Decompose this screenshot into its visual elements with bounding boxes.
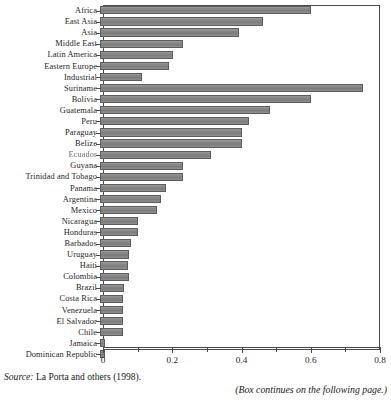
bar-track — [100, 227, 388, 238]
bar — [100, 162, 183, 170]
bar-row: Brazil — [0, 282, 391, 293]
category-label: Mexico — [0, 206, 100, 215]
category-label: Peru — [0, 117, 100, 126]
x-axis-tick — [311, 347, 312, 353]
x-axis-tick — [138, 347, 139, 352]
bar-track — [100, 183, 388, 194]
bar — [100, 284, 124, 292]
bar-track — [100, 293, 388, 304]
source-label: Source: — [4, 371, 33, 382]
x-axis-tick — [345, 347, 346, 352]
bar-track — [100, 194, 388, 205]
category-label: Haiti — [0, 261, 100, 270]
bar-track — [100, 205, 388, 216]
x-axis-tick-label: 0 — [101, 355, 106, 366]
bar-row: Eastern Europe — [0, 60, 391, 71]
bar — [100, 106, 270, 114]
bar-track — [100, 160, 388, 171]
bar-row: Asia — [0, 27, 391, 38]
category-label: Eastern Europe — [0, 62, 100, 71]
bar-row: Nicaragua — [0, 216, 391, 227]
bar — [100, 139, 242, 147]
bar — [100, 6, 311, 14]
bar-row: Belize — [0, 138, 391, 149]
bar-row: Ecuador — [0, 149, 391, 160]
category-label: Belize — [0, 139, 100, 148]
bar-track — [100, 171, 388, 182]
bar — [100, 173, 183, 181]
bar-track — [100, 127, 388, 138]
x-axis: 00.20.40.60.8 — [103, 347, 381, 373]
bar-row: Colombia — [0, 271, 391, 282]
bar — [100, 117, 249, 125]
category-label: Panama — [0, 184, 100, 193]
bar-row: Suriname — [0, 83, 391, 94]
category-label: Middle East — [0, 39, 100, 48]
bar — [100, 40, 183, 48]
bar-row: Honduras — [0, 227, 391, 238]
bar-row: Guatemala — [0, 105, 391, 116]
category-label: Guyana — [0, 161, 100, 170]
bar-row: Africa — [0, 5, 391, 16]
x-axis-tick-label: 0.6 — [305, 355, 316, 366]
bar — [100, 273, 129, 281]
bar — [100, 95, 311, 103]
bar-track — [100, 5, 388, 16]
bar-track — [100, 60, 388, 71]
bar-row: Chile — [0, 327, 391, 338]
bar-row: Middle East — [0, 38, 391, 49]
bar-row: Bolivia — [0, 94, 391, 105]
bar-track — [100, 260, 388, 271]
box-continues-note: (Box continues on the following page.) — [235, 384, 387, 396]
bar-chart-figure: AfricaEast AsiaAsiaMiddle EastLatin Amer… — [0, 0, 391, 400]
x-axis-tick-label: 0.4 — [236, 355, 247, 366]
source-citation: La Porta and others (1998). — [36, 371, 141, 382]
category-label: Nicaragua — [0, 217, 100, 226]
category-label: Bolivia — [0, 95, 100, 104]
category-label: Industrial — [0, 73, 100, 82]
x-axis-tick — [380, 347, 381, 353]
category-label: Colombia — [0, 272, 100, 281]
bar-row: Industrial — [0, 72, 391, 83]
bar-row: Guyana — [0, 160, 391, 171]
bar-track — [100, 305, 388, 316]
category-label: Uruguay — [0, 250, 100, 259]
x-axis-tick-label: 0.2 — [167, 355, 178, 366]
bar-track — [100, 271, 388, 282]
bar — [100, 151, 211, 159]
category-label: Costa Rica — [0, 294, 100, 303]
bar-track — [100, 249, 388, 260]
category-label: Brazil — [0, 283, 100, 292]
category-label: Chile — [0, 328, 100, 337]
bar — [100, 239, 131, 247]
category-label: Africa — [0, 6, 100, 15]
bar-track — [100, 27, 388, 38]
bar-row: Argentina — [0, 194, 391, 205]
bar — [100, 28, 239, 36]
bar-track — [100, 216, 388, 227]
bar — [100, 73, 142, 81]
category-label: Jamaica — [0, 339, 100, 348]
bar-row: Haiti — [0, 260, 391, 271]
bar — [100, 228, 138, 236]
x-axis-tick — [207, 347, 208, 352]
chart-plot-area: AfricaEast AsiaAsiaMiddle EastLatin Amer… — [0, 2, 391, 352]
bar-row: Trinidad and Tobago — [0, 171, 391, 182]
x-axis-tick — [276, 347, 277, 352]
bar-row: El Salvador — [0, 316, 391, 327]
bar — [100, 295, 123, 303]
category-label: Venezuela — [0, 306, 100, 315]
bar-track — [100, 38, 388, 49]
category-label: East Asia — [0, 17, 100, 26]
bar-row: Latin America — [0, 49, 391, 60]
bar — [100, 217, 138, 225]
bar-track — [100, 149, 388, 160]
bar — [100, 261, 128, 269]
bar-track — [100, 49, 388, 60]
category-label: Paraguay — [0, 128, 100, 137]
x-axis-tick — [242, 347, 243, 353]
bar-row: Venezuela — [0, 305, 391, 316]
bar — [100, 306, 123, 314]
bar-track — [100, 327, 388, 338]
category-label: Barbados — [0, 239, 100, 248]
